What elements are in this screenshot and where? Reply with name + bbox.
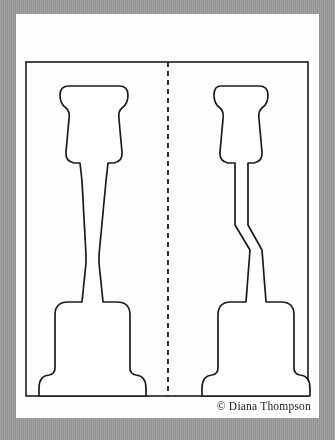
- pattern-drawing: [0, 0, 335, 440]
- copyright-credit: © Diana Thompson: [217, 400, 311, 412]
- scanned-page: © Diana Thompson: [0, 0, 335, 440]
- right-pattern-piece-outline: [202, 86, 310, 396]
- left-pattern-piece-outline: [39, 86, 146, 396]
